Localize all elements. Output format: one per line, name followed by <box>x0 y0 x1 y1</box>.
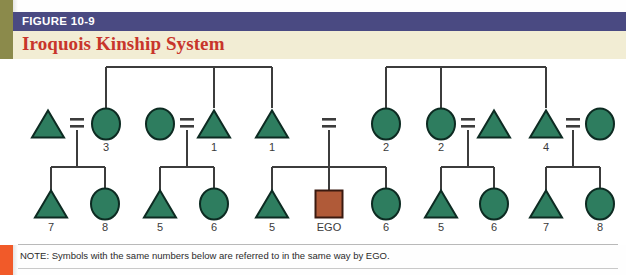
male-triangle-icon <box>256 191 288 218</box>
symbol-number-label: 5 <box>157 221 163 233</box>
kin-symbol-circle-8[interactable]: 8 <box>91 189 119 233</box>
equals-bar-top <box>180 118 194 121</box>
note-divider-top <box>18 244 618 245</box>
kin-symbol-triangle-1[interactable]: 1 <box>256 111 288 153</box>
kin-symbol-circle-6[interactable]: 6 <box>480 189 508 233</box>
symbol-number-label: 5 <box>269 221 275 233</box>
kin-symbol-circle-6[interactable]: 6 <box>372 189 400 233</box>
kin-symbol-triangle-7[interactable]: 7 <box>35 191 67 233</box>
kin-symbol-triangle[interactable] <box>32 111 64 138</box>
ego-label: EGO <box>317 221 342 233</box>
male-triangle-icon <box>425 191 457 218</box>
symbol-number-label: 6 <box>491 221 497 233</box>
female-circle-icon <box>427 109 455 140</box>
kin-symbol-circle[interactable] <box>586 109 614 140</box>
marriage-equals-icon <box>322 118 336 128</box>
equals-bar-bottom <box>566 125 580 128</box>
ego-square-icon <box>316 191 343 218</box>
equals-bar-top <box>322 118 336 121</box>
male-triangle-icon <box>35 191 67 218</box>
symbol-number-label: 6 <box>383 221 389 233</box>
equals-bar-bottom <box>461 125 475 128</box>
equals-bar-top <box>566 118 580 121</box>
symbol-number-label: 8 <box>597 221 603 233</box>
kin-symbol-square-EGO[interactable]: EGO <box>316 191 343 233</box>
kinship-diagram: 31122478565EGO65678 <box>0 59 626 245</box>
kin-symbol-circle-6[interactable]: 6 <box>200 189 228 233</box>
note-divider-bottom <box>18 268 618 269</box>
kin-symbol-circle[interactable] <box>146 109 174 140</box>
symbol-number-label: 2 <box>438 141 444 153</box>
symbol-number-label: 8 <box>102 221 108 233</box>
kin-symbol-triangle-4[interactable]: 4 <box>530 111 562 153</box>
male-triangle-icon <box>144 191 176 218</box>
symbol-number-label: 2 <box>383 141 389 153</box>
equals-bar-bottom <box>180 125 194 128</box>
kin-symbol-circle-2[interactable]: 2 <box>427 109 455 153</box>
kin-symbol-triangle-5[interactable]: 5 <box>256 191 288 233</box>
marriage-equals-icon <box>70 118 84 128</box>
male-triangle-icon <box>530 191 562 218</box>
kin-symbol-circle-2[interactable]: 2 <box>372 109 400 153</box>
equals-bar-bottom <box>322 125 336 128</box>
marriage-equals-icon <box>566 118 580 128</box>
female-circle-icon <box>91 189 119 220</box>
symbol-number-label: 5 <box>438 221 444 233</box>
female-circle-icon <box>586 109 614 140</box>
marriage-equals-icon <box>461 118 475 128</box>
female-circle-icon <box>92 109 120 140</box>
kin-symbol-triangle-5[interactable]: 5 <box>144 191 176 233</box>
symbol-number-label: 1 <box>211 141 217 153</box>
equals-bar-top <box>461 118 475 121</box>
symbol-number-label: 3 <box>103 141 109 153</box>
connector-layer <box>51 67 600 191</box>
kin-symbol-triangle[interactable] <box>478 111 510 138</box>
male-triangle-icon <box>32 111 64 138</box>
kin-symbol-triangle-7[interactable]: 7 <box>530 191 562 233</box>
figure-label-bar <box>13 12 626 31</box>
female-circle-icon <box>146 109 174 140</box>
symbol-number-label: 7 <box>48 221 54 233</box>
figure-label: FIGURE 10-9 <box>22 15 95 27</box>
figure-note: NOTE: Symbols with the same numbers belo… <box>20 250 390 261</box>
male-triangle-icon <box>256 111 288 138</box>
symbol-number-label: 1 <box>269 141 275 153</box>
marriage-equals-icon <box>180 118 194 128</box>
kin-symbol-triangle-5[interactable]: 5 <box>425 191 457 233</box>
figure-title: Iroquois Kinship System <box>22 33 225 55</box>
kin-symbol-circle-8[interactable]: 8 <box>586 189 614 233</box>
male-triangle-icon <box>478 111 510 138</box>
female-circle-icon <box>372 109 400 140</box>
female-circle-icon <box>586 189 614 220</box>
male-triangle-icon <box>198 111 230 138</box>
female-circle-icon <box>200 189 228 220</box>
female-circle-icon <box>372 189 400 220</box>
kin-symbol-circle-3[interactable]: 3 <box>92 109 120 153</box>
symbol-number-label: 4 <box>543 141 549 153</box>
figure-container: FIGURE 10-9 Iroquois Kinship System 3112… <box>0 0 626 275</box>
symbol-number-label: 7 <box>543 221 549 233</box>
female-circle-icon <box>480 189 508 220</box>
symbol-number-label: 6 <box>211 221 217 233</box>
equals-bar-bottom <box>70 125 84 128</box>
kin-symbol-triangle-1[interactable]: 1 <box>198 111 230 153</box>
male-triangle-icon <box>530 111 562 138</box>
equals-bar-top <box>70 118 84 121</box>
